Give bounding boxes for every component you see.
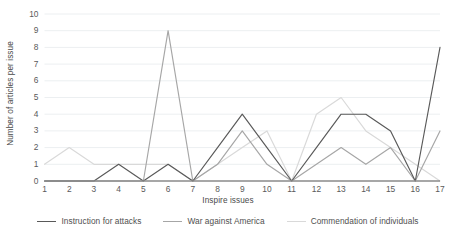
y-axis-tick-label: 2 [21, 142, 39, 152]
x-axis-title: Inspire issues [0, 196, 456, 205]
legend-label-commendation-of-individuals: Commendation of individuals [311, 216, 419, 226]
x-axis-tick-label: 11 [281, 184, 303, 194]
x-axis-tick-label: 2 [58, 184, 80, 194]
legend-item-instruction-for-attacks: Instruction for attacks [37, 216, 141, 226]
legend-item-war-against-america: War against America [163, 216, 264, 226]
x-axis-tick-label: 12 [305, 184, 327, 194]
y-axis-tick-label: 1 [21, 159, 39, 169]
x-axis-tick-label: 1 [34, 184, 56, 194]
legend-swatch-instruction-for-attacks [37, 221, 56, 222]
line-chart: Number of articles per issue Inspire iss… [0, 0, 456, 243]
x-axis-tick-label: 13 [330, 184, 352, 194]
x-axis-tick-label: 3 [83, 184, 105, 194]
y-axis-tick-label: 3 [21, 125, 39, 135]
x-axis-tick-label: 16 [404, 184, 426, 194]
y-axis-tick-label: 7 [21, 59, 39, 69]
y-axis-tick-label: 6 [21, 75, 39, 85]
x-axis-tick-label: 7 [182, 184, 204, 194]
x-axis-tick-label: 14 [355, 184, 377, 194]
legend-swatch-war-against-america [163, 221, 182, 222]
x-axis-tick-label: 10 [256, 184, 278, 194]
x-axis-tick-label: 9 [231, 184, 253, 194]
series-line [45, 31, 441, 181]
y-axis-tick-label: 4 [21, 109, 39, 119]
y-axis-tick-label: 8 [21, 42, 39, 52]
x-axis-tick-label: 6 [157, 184, 179, 194]
legend-item-commendation-of-individuals: Commendation of individuals [287, 216, 419, 226]
legend-swatch-commendation-of-individuals [287, 221, 306, 222]
series-line [45, 98, 441, 182]
legend-label-war-against-america: War against America [187, 216, 264, 226]
y-axis-tick-label: 10 [21, 9, 39, 19]
x-axis-tick-label: 17 [429, 184, 451, 194]
plot-area [0, 0, 456, 243]
y-axis-tick-label: 9 [21, 25, 39, 35]
x-axis-tick-label: 15 [380, 184, 402, 194]
x-axis-tick-label: 5 [132, 184, 154, 194]
y-axis-tick-label: 5 [21, 92, 39, 102]
x-axis-tick-label: 4 [108, 184, 130, 194]
legend-label-instruction-for-attacks: Instruction for attacks [61, 216, 141, 226]
chart-legend: Instruction for attacks War against Amer… [0, 212, 456, 230]
x-axis-tick-label: 8 [207, 184, 229, 194]
